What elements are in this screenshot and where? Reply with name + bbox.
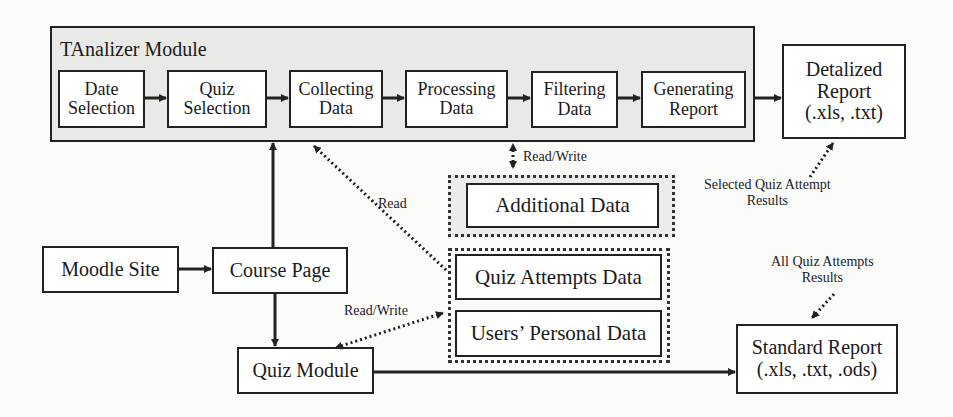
arrow-selected-results (810, 143, 833, 177)
label-read-write-moodle: Read/Write (344, 303, 408, 319)
label-all-results: All Quiz Attempts Results (771, 254, 874, 286)
label-selected-results: Selected Quiz Attempt Results (704, 177, 831, 209)
arrow-all-results (812, 294, 834, 318)
label-read-write-additional: Read/Write (523, 149, 587, 165)
label-read: Read (378, 196, 407, 212)
